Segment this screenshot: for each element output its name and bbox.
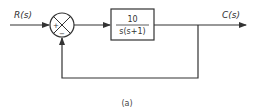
block-denominator: s(s+1) bbox=[119, 27, 145, 36]
transfer-function-block: 10 s(s+1) bbox=[111, 9, 154, 40]
block-diagram: R(s) + − 10 s(s+1) C(s) (a) bbox=[0, 0, 254, 111]
output-label: C(s) bbox=[222, 10, 240, 20]
block-numerator: 10 bbox=[127, 15, 137, 24]
plus-sign: + bbox=[53, 22, 59, 30]
input-label: R(s) bbox=[14, 10, 32, 20]
figure-caption: (a) bbox=[121, 99, 132, 108]
minus-sign: − bbox=[59, 30, 65, 38]
summing-junction: + − bbox=[50, 13, 74, 38]
